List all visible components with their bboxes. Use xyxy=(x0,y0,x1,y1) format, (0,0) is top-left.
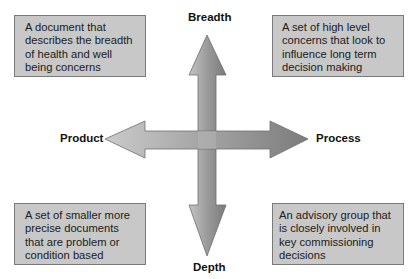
quadrant-box-top-right: A set of high level concerns that look t… xyxy=(272,15,404,77)
quadrant-box-bottom-right: An advisory group that is closely involv… xyxy=(272,203,404,265)
quadrant-box-top-left: A document that describes the breadth of… xyxy=(14,15,146,77)
axis-label-depth: Depth xyxy=(193,261,226,273)
quadrant-box-bottom-left: A set of smaller more precise documents … xyxy=(14,203,146,265)
axis-label-product: Product xyxy=(60,132,103,144)
axis-label-breadth: Breadth xyxy=(188,11,231,23)
axis-label-process: Process xyxy=(316,132,361,144)
arrow-intersection xyxy=(198,131,216,149)
